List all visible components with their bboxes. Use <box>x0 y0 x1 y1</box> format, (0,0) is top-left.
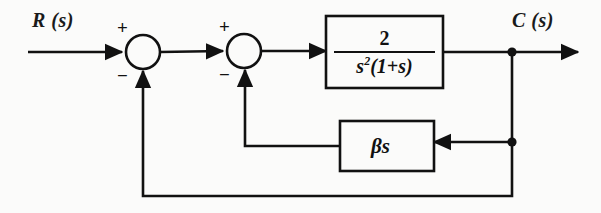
plant-denominator-tail: (1+s) <box>370 55 413 77</box>
block-diagram: R (s) C (s) + − + − 2 s2(1+s) βs <box>0 0 601 213</box>
summer-2-plus-sign: + <box>219 17 230 36</box>
feedback-gain-label: βs <box>371 134 390 159</box>
junction-dot-inner-feedback <box>507 137 516 146</box>
summing-junction-2 <box>227 34 261 68</box>
plant-denominator-base: s <box>356 55 364 77</box>
junction-dot-output <box>507 47 516 56</box>
summing-junction-1 <box>126 35 160 69</box>
plant-numerator: 2 <box>372 27 398 51</box>
diagram-canvas <box>0 0 601 213</box>
output-label-cs: C (s) <box>512 10 554 30</box>
plant-denominator: s2(1+s) <box>350 53 418 78</box>
plant-transfer-function: 2 s2(1+s) <box>334 20 435 84</box>
summer-2-minus-sign: − <box>219 65 230 84</box>
summer-1-minus-sign: − <box>117 66 128 85</box>
feedback-line-outer-loop <box>143 71 512 196</box>
input-label-rs: R (s) <box>32 10 74 30</box>
summer-1-plus-sign: + <box>117 18 128 37</box>
signal-line-error1 <box>160 51 223 52</box>
